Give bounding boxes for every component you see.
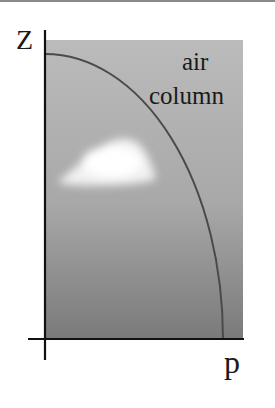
z-axis-label: Z xyxy=(16,26,33,54)
air-column-label-line1: air xyxy=(182,49,208,74)
p-axis-label: p xyxy=(224,346,240,378)
air-column-label-line2: column xyxy=(149,83,224,108)
